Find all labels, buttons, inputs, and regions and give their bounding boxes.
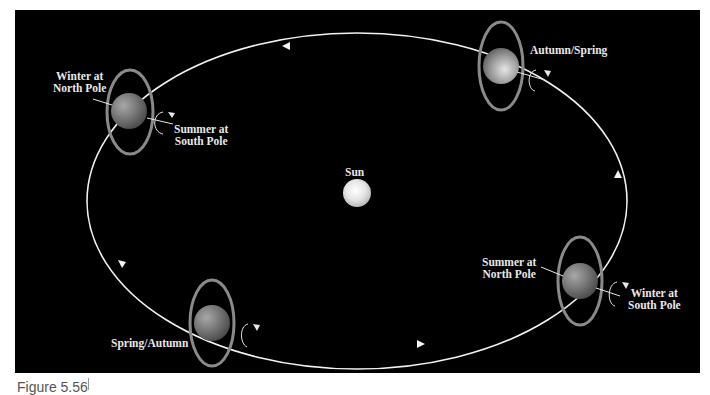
label-summer-south-pole: Summer at South Pole (174, 123, 228, 147)
label-summer-north-pole: Summer at North Pole (482, 256, 536, 280)
caption-divider (88, 378, 89, 390)
label-line: Summer at (482, 256, 536, 268)
label-line: Winter at (628, 287, 681, 299)
label-line: South Pole (174, 135, 228, 147)
rotation-arrow-icon (155, 112, 163, 134)
label-line: South Pole (628, 299, 681, 311)
label-winter-south-pole: Winter at South Pole (628, 287, 681, 311)
planet-bottom-left (190, 280, 260, 366)
label-line: Summer at (174, 123, 228, 135)
label-autumn-spring: Autumn/Spring (530, 44, 607, 56)
label-line: North Pole (482, 268, 536, 280)
label-sun: Sun (345, 166, 364, 178)
label-line: Winter at (53, 70, 106, 82)
rotation-arrow-icon (242, 324, 249, 347)
figure-caption: Figure 5.56 (17, 380, 88, 394)
planet-top-right (479, 22, 551, 110)
label-line: North Pole (53, 82, 106, 94)
label-spring-autumn: Spring/Autumn (111, 337, 188, 349)
label-winter-north-pole: Winter at North Pole (53, 70, 106, 94)
sun-icon (343, 179, 371, 207)
